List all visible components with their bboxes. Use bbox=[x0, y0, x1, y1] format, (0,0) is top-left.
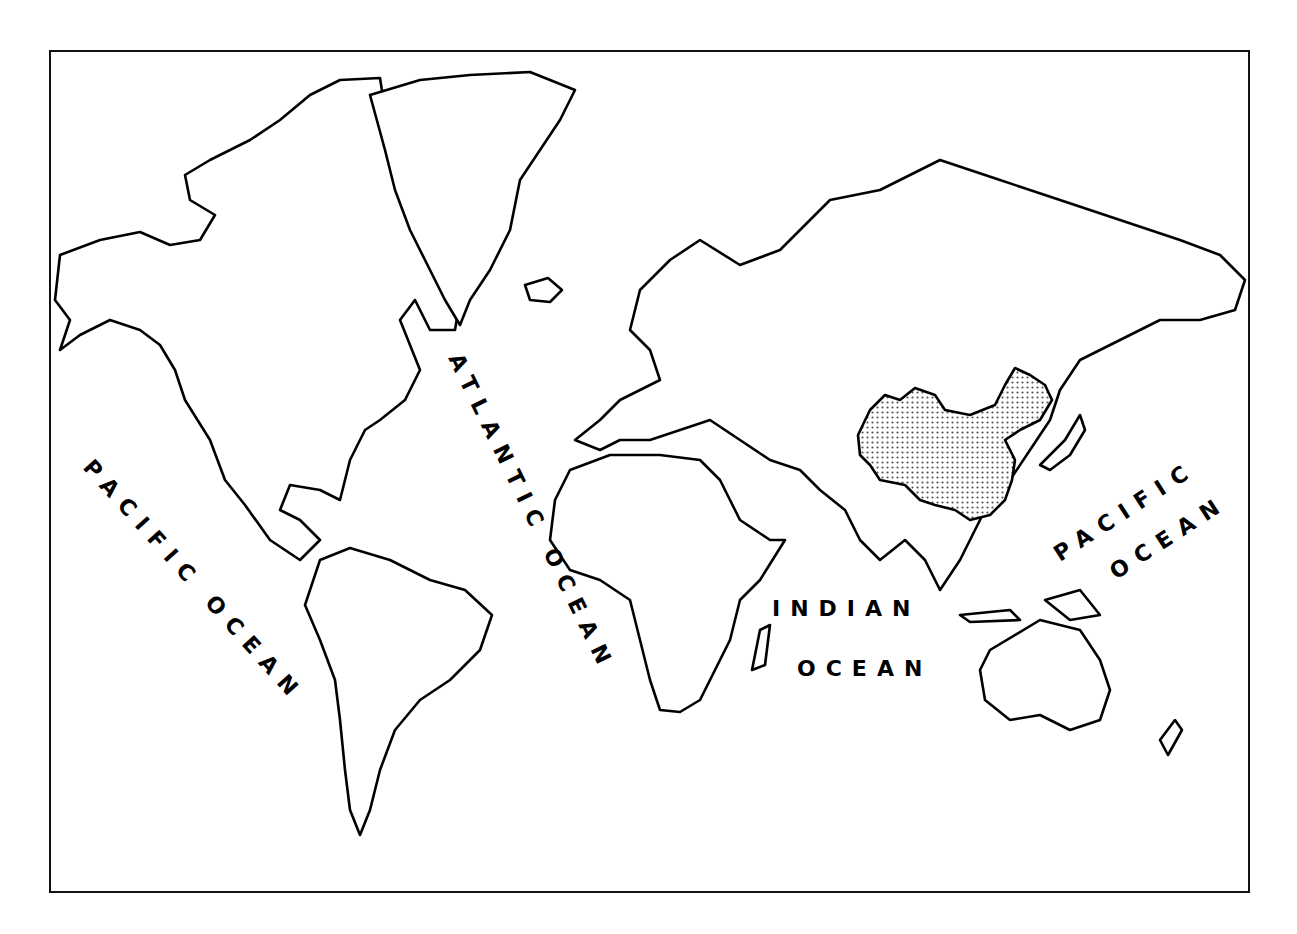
australia bbox=[980, 620, 1110, 730]
indian-ocean-label-line1: INDIAN bbox=[772, 596, 920, 621]
south-america bbox=[305, 548, 492, 835]
new-zealand bbox=[1160, 720, 1182, 755]
new-guinea bbox=[1045, 590, 1100, 620]
iceland bbox=[525, 278, 562, 302]
world-map: PACIFIC OCEAN ATLANTIC OCEAN INDIAN OCEA… bbox=[0, 0, 1297, 934]
africa bbox=[550, 455, 785, 712]
indian-ocean-label-line2: OCEAN bbox=[797, 656, 932, 681]
indonesia bbox=[960, 610, 1020, 622]
madagascar bbox=[752, 625, 770, 670]
